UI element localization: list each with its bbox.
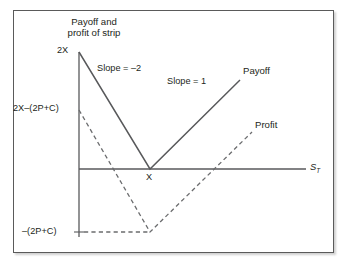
y-tick-label-top: 2X — [57, 45, 68, 55]
series-label-payoff: Payoff — [243, 66, 270, 77]
x-axis-label: ST — [310, 162, 320, 174]
annotation-slope-left: Slope = –2 — [97, 63, 141, 73]
x-vertex-label: X — [146, 172, 152, 182]
figure-root: Payoff and profit of strip 2X 2X–(2P+C) … — [0, 0, 350, 269]
chart-title-line2: profit of strip — [46, 28, 142, 39]
x-axis-label-subscript: T — [316, 167, 320, 174]
y-tick-label-bottom: –(2P+C) — [22, 226, 56, 236]
series-label-profit: Profit — [255, 120, 277, 131]
chart-title: Payoff and profit of strip — [46, 17, 142, 38]
annotation-slope-right: Slope = 1 — [167, 76, 206, 86]
y-tick-label-mid: 2X–(2P+C) — [13, 103, 59, 113]
